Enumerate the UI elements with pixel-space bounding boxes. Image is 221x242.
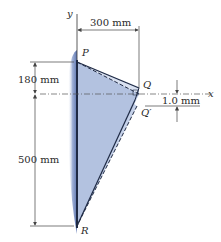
dimension-500mm: 500 mm (18, 155, 59, 165)
point-P-label: P (82, 48, 89, 58)
deformation-diagram: y x P Q Q′ R 300 mm 180 mm 500 mm 1.0 mm (0, 0, 221, 242)
point-R-label: R (81, 226, 89, 236)
y-axis-label: y (67, 9, 73, 19)
dimension-180mm: 180 mm (18, 75, 59, 85)
dimension-1mm: 1.0 mm (162, 96, 200, 106)
dimension-300mm: 300 mm (90, 18, 131, 28)
wall-support (68, 50, 77, 234)
x-axis-label: x (208, 89, 214, 99)
point-Q-prime-label: Q′ (141, 108, 151, 118)
point-Q-label: Q (143, 80, 151, 90)
diagram-canvas (0, 0, 221, 242)
